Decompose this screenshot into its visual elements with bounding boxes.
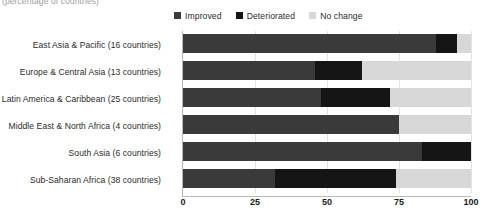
chart-row: Middle East & North Africa (4 countries) — [183, 112, 471, 139]
bar-segment-no-change[interactable] — [390, 88, 471, 107]
x-axis-tick-label: 50 — [322, 197, 332, 207]
category-label: Sub-Saharan Africa (38 countries) — [0, 175, 161, 185]
x-axis-tick-label: 75 — [394, 197, 404, 207]
bar-segment-no-change[interactable] — [396, 169, 471, 188]
stacked-bar[interactable] — [183, 142, 471, 161]
bar-segment-improved[interactable] — [183, 115, 399, 134]
legend-swatch-deteriorated-icon — [236, 12, 243, 19]
legend-item-label: Improved — [185, 11, 222, 21]
x-axis-tick-label: 0 — [180, 197, 185, 207]
chart-legend: ImprovedDeterioratedNo change — [174, 9, 363, 22]
chart-row: Latin America & Caribbean (25 countries) — [183, 85, 471, 112]
chart-row: South Asia (6 countries) — [183, 139, 471, 166]
bar-segment-deteriorated[interactable] — [275, 169, 396, 188]
legend-item-label: No change — [320, 11, 362, 21]
legend-item-label: Deteriorated — [247, 11, 296, 21]
x-axis-tick-label: 100 — [463, 197, 478, 207]
stacked-bar[interactable] — [183, 88, 471, 107]
bar-segment-improved[interactable] — [183, 34, 436, 53]
bar-segment-deteriorated[interactable] — [436, 34, 456, 53]
bar-segment-no-change[interactable] — [399, 115, 471, 134]
category-label: East Asia & Pacific (16 countries) — [0, 40, 161, 50]
bar-segment-improved[interactable] — [183, 169, 275, 188]
bar-segment-improved[interactable] — [183, 142, 422, 161]
bar-segment-no-change[interactable] — [457, 34, 471, 53]
gridline — [471, 31, 472, 193]
chart-row: Sub-Saharan Africa (38 countries) — [183, 166, 471, 193]
category-label: Latin America & Caribbean (25 countries) — [0, 94, 161, 104]
x-axis-tick-label: 25 — [250, 197, 260, 207]
chart-subtitle: (percentage of countries) — [2, 0, 99, 6]
plot-area: East Asia & Pacific (16 countries)Europe… — [183, 31, 471, 193]
bar-segment-improved[interactable] — [183, 88, 321, 107]
stacked-bar[interactable] — [183, 61, 471, 80]
bar-segment-deteriorated[interactable] — [422, 142, 471, 161]
legend-swatch-improved-icon — [174, 12, 181, 19]
bar-segment-no-change[interactable] — [362, 61, 471, 80]
category-label: South Asia (6 countries) — [0, 148, 161, 158]
legend-swatch-no-change-icon — [309, 12, 316, 19]
bar-segment-improved[interactable] — [183, 61, 315, 80]
chart-row: Europe & Central Asia (13 countries) — [183, 58, 471, 85]
legend-item[interactable]: Improved — [174, 11, 222, 21]
stacked-bar-chart: (percentage of countries) ImprovedDeteri… — [0, 0, 487, 218]
legend-item[interactable]: Deteriorated — [236, 11, 296, 21]
stacked-bar[interactable] — [183, 169, 471, 188]
stacked-bar[interactable] — [183, 115, 471, 134]
chart-row: East Asia & Pacific (16 countries) — [183, 31, 471, 58]
category-label: Europe & Central Asia (13 countries) — [0, 67, 161, 77]
bar-segment-deteriorated[interactable] — [321, 88, 390, 107]
category-label: Middle East & North Africa (4 countries) — [0, 121, 161, 131]
bar-segment-deteriorated[interactable] — [315, 61, 361, 80]
stacked-bar[interactable] — [183, 34, 471, 53]
legend-item[interactable]: No change — [309, 11, 362, 21]
